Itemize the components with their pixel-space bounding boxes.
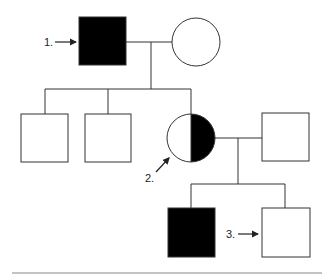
gen2-son2-square	[85, 114, 131, 162]
gen2-spouse-square	[262, 113, 309, 161]
gen2-son1-square	[21, 114, 68, 162]
gen3-son-unaffected-square	[262, 208, 310, 257]
label-1: 1.	[44, 36, 53, 48]
pedigree-diagram: 1. 2. 3.	[0, 0, 331, 275]
gen2-daughter-carrier-circle	[167, 114, 215, 162]
label-3: 3.	[226, 228, 235, 240]
gen3-son-affected-square	[168, 208, 215, 257]
arrow-2	[156, 158, 169, 172]
label-2: 2.	[145, 172, 154, 184]
gen1-mother-circle	[172, 18, 220, 66]
gen1-father-affected-square	[79, 17, 126, 65]
